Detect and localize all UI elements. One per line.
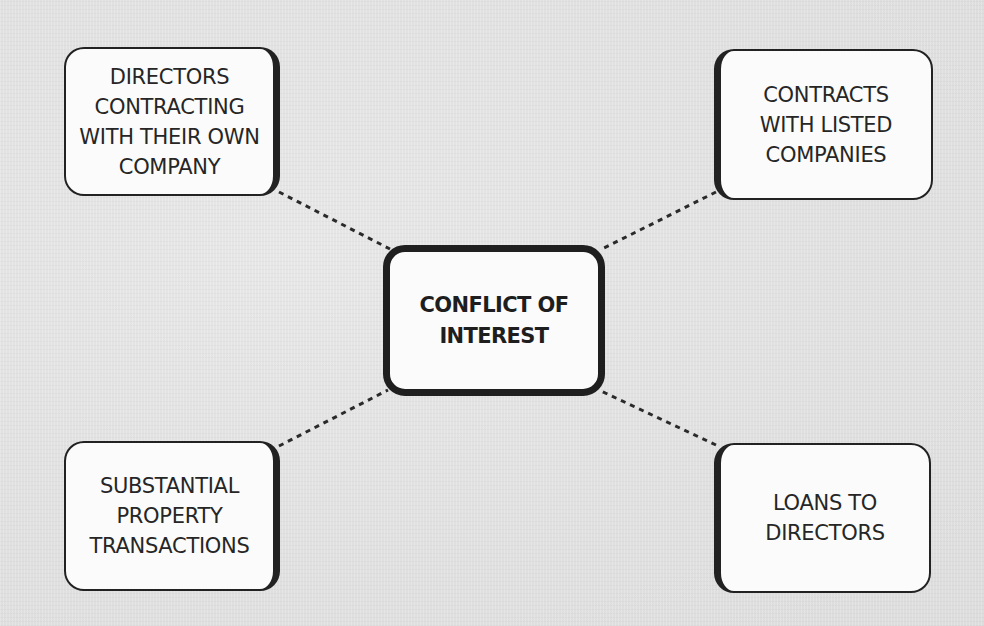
node-loans-to-directors: LOANS TO DIRECTORS bbox=[714, 443, 931, 593]
node-contracts-listed-companies: CONTRACTS WITH LISTED COMPANIES bbox=[714, 49, 933, 200]
center-label: CONFLICT OF INTEREST bbox=[419, 290, 568, 352]
node-conflict-of-interest: CONFLICT OF INTEREST bbox=[383, 245, 605, 396]
node-directors-contracting: DIRECTORS CONTRACTING WITH THEIR OWN COM… bbox=[64, 47, 280, 196]
connector-top-left bbox=[279, 192, 390, 249]
connector-bottom-left bbox=[279, 390, 388, 446]
node-label: DIRECTORS CONTRACTING WITH THEIR OWN COM… bbox=[79, 62, 259, 182]
node-label: SUBSTANTIAL PROPERTY TRANSACTIONS bbox=[89, 471, 249, 561]
connector-top-right bbox=[600, 192, 716, 250]
node-substantial-property-transactions: SUBSTANTIAL PROPERTY TRANSACTIONS bbox=[64, 441, 280, 591]
connector-bottom-right bbox=[601, 391, 716, 445]
node-label: LOANS TO DIRECTORS bbox=[765, 488, 884, 548]
node-label: CONTRACTS WITH LISTED COMPANIES bbox=[760, 80, 892, 170]
